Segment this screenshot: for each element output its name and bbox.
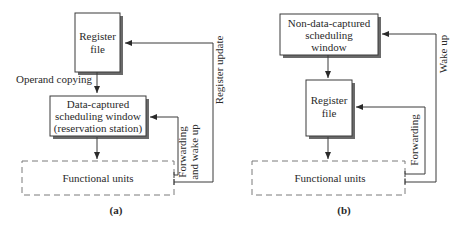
data-captured-scheduling-window-box: Data-captured scheduling window (reserva… <box>50 96 149 139</box>
scheduling-window-label-line3: (reservation station) <box>54 122 143 135</box>
nd-scheduling-window-label-line3: window <box>311 41 347 53</box>
diagram-a: Register file Operand copying Data-captu… <box>16 13 225 217</box>
diagram-b: Non-data-captured scheduling window Regi… <box>252 14 449 217</box>
caption-a: (a) <box>110 204 123 217</box>
forwarding-wakeup-path-a <box>150 117 178 175</box>
diagram-canvas: Register file Operand copying Data-captu… <box>0 0 462 228</box>
register-file-label-line2: file <box>90 43 105 55</box>
functional-units-box-b: Functional units <box>252 161 405 195</box>
register-file-box-b: Register file <box>306 80 355 139</box>
register-update-label: Register update <box>213 36 225 105</box>
register-file-label-line1: Register <box>79 30 116 42</box>
functional-units-label-a: Functional units <box>62 172 133 184</box>
functional-units-label-b: Functional units <box>294 172 365 184</box>
register-file-b-label-line2: file <box>322 107 337 119</box>
functional-units-box-a: Functional units <box>22 161 174 195</box>
nd-scheduling-window-label-line2: scheduling <box>305 29 353 41</box>
scheduling-window-label-line1: Data-captured <box>67 98 130 110</box>
forwarding-label-line1: Forwarding <box>176 126 188 178</box>
wake-up-label: Wake up <box>437 34 449 73</box>
non-data-captured-scheduling-window-box: Non-data-captured scheduling window <box>280 14 381 58</box>
register-file-box-a: Register file <box>75 13 123 75</box>
scheduling-window-label-line2: scheduling window <box>55 110 141 122</box>
operand-copying-label: Operand copying <box>16 73 93 85</box>
forwarding-label-a: Forwarding and wake up <box>176 124 200 180</box>
register-file-b-label-line1: Register <box>311 94 348 106</box>
forwarding-label-line2: and wake up <box>188 124 200 180</box>
caption-b: (b) <box>337 204 351 217</box>
forwarding-label-b: Forwarding <box>408 114 420 166</box>
nd-scheduling-window-label-line1: Non-data-captured <box>288 17 371 29</box>
